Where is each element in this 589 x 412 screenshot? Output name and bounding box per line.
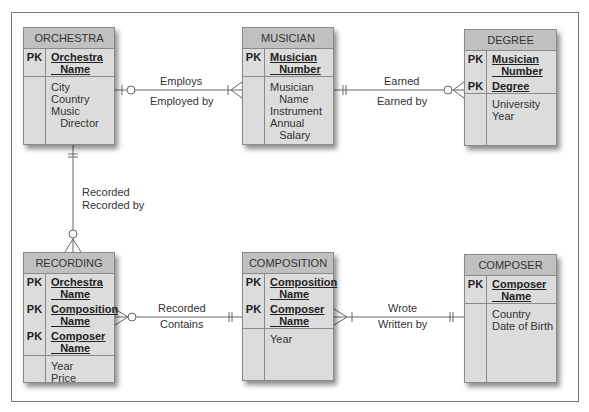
pk-label: PK (243, 49, 265, 76)
entity-composer[interactable]: COMPOSER PKComposer Name Country Date of… (464, 254, 557, 383)
attribute-list: Year (265, 329, 333, 345)
pk-section: PKComposition Name PKComposer Name (243, 274, 333, 329)
attribute-section: University Year (465, 94, 556, 145)
pk-label: PK (243, 274, 265, 301)
rel-recorded-by-label: Recorded by (82, 199, 144, 211)
attribute-section: Year Price (24, 356, 114, 384)
pk-attribute: Composition Name (265, 274, 337, 301)
attribute-list: Year Price (46, 356, 114, 384)
rel-employs-label: Employs (160, 75, 202, 87)
pk-section: PKOrchestra Name (24, 49, 114, 77)
entity-title: MUSICIAN (243, 28, 333, 49)
rel-earned-label: Earned (384, 75, 419, 87)
rel-written-by-label: Written by (378, 318, 427, 330)
pk-section: PKOrchestra Name PKComposition Name PKCo… (24, 274, 114, 356)
entity-title: DEGREE (465, 30, 556, 51)
attribute-section: Musician Name Instrument Annual Salary (243, 77, 333, 144)
attribute-section: Country Date of Birth (465, 304, 556, 382)
entity-title: COMPOSER (465, 255, 556, 276)
pk-label: PK (465, 276, 487, 303)
entity-degree[interactable]: DEGREE PKMusician Number PKDegree Univer… (464, 29, 557, 146)
pk-label: PK (465, 51, 487, 78)
entity-composition[interactable]: COMPOSITION PKComposition Name PKCompose… (242, 252, 334, 381)
pk-attribute: Orchestra Name (46, 274, 103, 301)
attribute-list: University Year (487, 94, 556, 122)
pk-section: PKMusician Number (243, 49, 333, 77)
pk-label: PK (24, 274, 46, 301)
pk-attribute: Degree (487, 78, 529, 93)
attribute-list: Musician Name Instrument Annual Salary (265, 77, 333, 141)
pk-attribute: Orchestra Name (46, 49, 103, 76)
pk-section: PKMusician Number PKDegree (465, 51, 556, 94)
pk-attribute: Composer Name (46, 328, 105, 355)
entity-title: RECORDING (24, 253, 114, 274)
entity-orchestra[interactable]: ORCHESTRA PKOrchestra Name City Country … (23, 27, 115, 145)
pk-attribute: Musician Number (265, 49, 321, 76)
pk-attribute: Composer Name (487, 276, 546, 303)
pk-label: PK (24, 301, 46, 328)
pk-section: PKComposer Name (465, 276, 556, 304)
rel-contains-label: Contains (160, 318, 203, 330)
pk-label: PK (243, 301, 265, 328)
entity-recording[interactable]: RECORDING PKOrchestra Name PKComposition… (23, 252, 115, 383)
pk-attribute: Composer Name (265, 301, 324, 328)
entity-title: ORCHESTRA (24, 28, 114, 49)
rel-recorded-label: Recorded (82, 186, 130, 198)
rel-recorded-label-2: Recorded (158, 302, 206, 314)
attribute-list: Country Date of Birth (487, 304, 556, 332)
pk-label: PK (465, 78, 487, 93)
pk-attribute: Musician Number (487, 51, 543, 78)
attribute-list: City Country Music Director (46, 77, 114, 129)
attribute-section: City Country Music Director (24, 77, 114, 144)
pk-attribute: Composition Name (46, 301, 118, 328)
attribute-section: Year (243, 329, 333, 380)
rel-employed-by-label: Employed by (150, 95, 214, 107)
rel-earned-by-label: Earned by (377, 95, 427, 107)
pk-label: PK (24, 49, 46, 76)
pk-label: PK (24, 328, 46, 355)
entity-title: COMPOSITION (243, 253, 333, 274)
entity-musician[interactable]: MUSICIAN PKMusician Number Musician Name… (242, 27, 334, 145)
rel-wrote-label: Wrote (388, 302, 417, 314)
